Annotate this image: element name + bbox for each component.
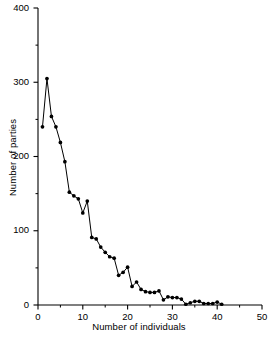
data-point	[215, 300, 219, 304]
data-point	[103, 250, 107, 254]
data-point	[45, 77, 49, 81]
data-point	[108, 255, 112, 259]
data-point	[180, 297, 184, 301]
y-axis-ticks	[34, 8, 39, 305]
data-point	[206, 302, 210, 306]
data-series-markers	[41, 77, 224, 306]
data-point	[175, 296, 179, 300]
data-point	[99, 245, 103, 249]
data-point	[117, 273, 121, 277]
x-axis-tick-label: 20	[116, 311, 140, 322]
y-axis-tick-label: 400	[0, 2, 29, 13]
axes	[38, 8, 262, 305]
data-point	[126, 265, 130, 269]
data-point	[148, 291, 152, 295]
data-point	[162, 298, 166, 302]
data-point	[188, 301, 192, 305]
data-point	[153, 291, 157, 295]
data-point	[144, 290, 148, 294]
data-point	[135, 280, 139, 284]
x-axis-tick-label: 10	[71, 311, 95, 322]
data-point	[171, 296, 175, 300]
data-point	[112, 256, 116, 260]
data-point	[76, 197, 80, 201]
x-axis-tick-label: 30	[160, 311, 184, 322]
data-point	[184, 302, 188, 306]
data-point	[68, 190, 72, 194]
y-axis-tick-label: 300	[0, 76, 29, 87]
y-axis-tick-label: 100	[0, 224, 29, 235]
data-point	[54, 125, 58, 129]
chart-figure: Number of individuals Number of parties …	[0, 0, 278, 339]
data-point	[139, 288, 143, 292]
data-point	[211, 302, 215, 306]
y-axis-tick-label: 0	[0, 299, 29, 310]
data-point	[41, 125, 45, 129]
data-point	[193, 299, 197, 303]
plot-area	[0, 0, 278, 339]
x-axis-tick-label: 50	[250, 311, 274, 322]
data-point	[94, 237, 98, 241]
data-point	[121, 270, 125, 274]
x-axis-tick-label: 0	[26, 311, 50, 322]
data-point	[72, 194, 76, 198]
data-point	[220, 302, 224, 306]
x-axis-tick-label: 40	[205, 311, 229, 322]
data-point	[81, 211, 85, 215]
x-axis-ticks	[38, 305, 262, 310]
data-point	[85, 199, 89, 203]
data-point	[63, 160, 67, 164]
data-point	[59, 141, 63, 145]
data-point	[202, 302, 206, 306]
y-axis-tick-label: 200	[0, 150, 29, 161]
data-point	[157, 289, 161, 293]
x-axis-title: Number of individuals	[0, 321, 278, 332]
data-point	[50, 115, 54, 119]
data-point	[90, 236, 94, 240]
data-point	[130, 285, 134, 289]
data-point	[166, 295, 170, 299]
data-point	[197, 299, 201, 303]
